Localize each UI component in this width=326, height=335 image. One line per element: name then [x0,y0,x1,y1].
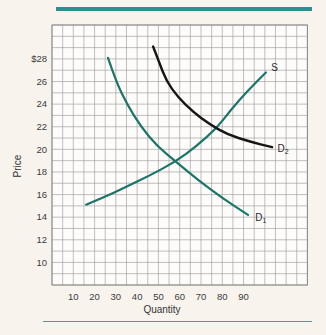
y-tick-label: 22 [36,121,47,132]
x-tick-label: 50 [153,291,164,302]
y-tick-label: $28 [31,53,47,64]
y-tick-label: 20 [36,144,47,155]
x-tick-label: 10 [68,291,79,302]
x-tick-label: 90 [238,291,249,302]
curve-label-sub: 1 [262,217,266,224]
y-axis-label: Price [12,154,23,177]
plot-layer: 102030405060708090$28262422201816141210S… [31,25,307,302]
y-tick-label: 12 [36,234,47,245]
y-tick-label: 16 [36,189,47,200]
x-axis-label: Quantity [143,304,180,315]
x-tick-label: 30 [111,291,122,302]
x-tick-label: 60 [174,291,185,302]
curve-label-supply: S [271,62,278,73]
y-tick-label: 26 [36,76,47,87]
chart-svg: 102030405060708090$28262422201816141210S… [0,0,326,335]
x-tick-label: 40 [132,291,143,302]
y-tick-label: 14 [36,211,47,222]
x-tick-label: 80 [217,291,228,302]
bottom-rule [43,321,312,322]
y-tick-label: 10 [36,257,47,268]
x-axis-ticks: 102030405060708090 [68,291,249,302]
x-tick-label: 20 [89,291,100,302]
y-tick-label: 24 [36,98,47,109]
y-tick-label: 18 [36,166,47,177]
curve-label-sub: 2 [285,148,289,155]
y-axis-ticks: $28262422201816141210 [31,53,47,267]
x-tick-label: 70 [196,291,207,302]
figure-container: 102030405060708090$28262422201816141210S… [0,0,326,335]
